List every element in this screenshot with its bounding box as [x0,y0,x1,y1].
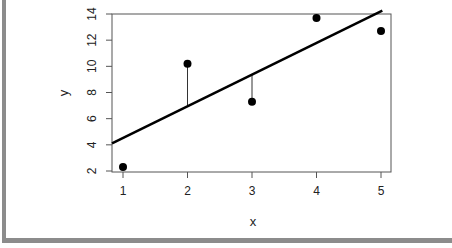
scatter-plot: 246810121412345xy [0,0,452,248]
x-tick-label: 3 [249,184,256,198]
y-tick-label: 10 [85,59,99,73]
y-tick-label: 2 [85,167,99,174]
data-point [248,98,256,106]
data-point [313,14,321,22]
y-tick-label: 14 [85,7,99,21]
data-point [119,163,127,171]
x-tick-label: 2 [184,184,191,198]
y-tick-label: 12 [85,33,99,47]
x-axis-label: x [250,214,257,229]
x-tick-label: 5 [378,184,385,198]
x-tick-label: 1 [120,184,127,198]
data-point [377,27,385,35]
plot-area: 246810121412345xy [56,7,391,229]
y-tick-label: 8 [85,89,99,96]
data-point [184,60,192,68]
y-tick-label: 6 [85,115,99,122]
regression-line [112,11,382,144]
y-axis-label: y [56,89,71,96]
x-tick-label: 4 [313,184,320,198]
y-tick-label: 4 [85,141,99,148]
